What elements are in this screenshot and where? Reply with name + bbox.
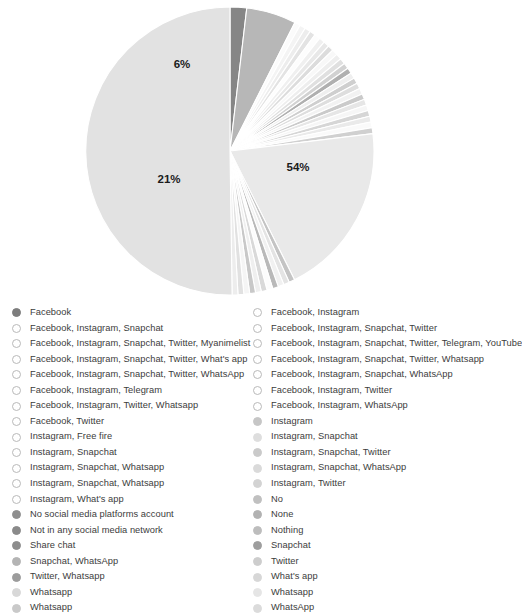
legend-color-swatch-icon [12,355,21,364]
legend-item-label: Facebook, Instagram, Snapchat, Twitter, … [30,336,250,352]
legend-color-swatch-icon [253,339,262,348]
legend-item[interactable]: Snapchat, WhatsApp [12,554,248,570]
legend-color-swatch-icon [253,510,262,519]
legend-item[interactable]: WhatsApp [253,600,513,616]
legend-color-swatch-icon [12,464,21,473]
legend-color-swatch-icon [12,417,21,426]
legend-item[interactable]: Twitter, Whatsapp [12,569,248,585]
legend-item[interactable]: Facebook, Twitter [12,414,248,430]
legend-color-swatch-icon [12,433,21,442]
legend-color-swatch-icon [12,370,21,379]
legend-color-swatch-icon [12,308,21,317]
legend-color-swatch-icon [253,448,262,457]
legend-item[interactable]: Instagram, Snapchat, WhatsApp [253,460,513,476]
legend-color-swatch-icon [253,573,262,582]
legend-item[interactable]: Instagram, Snapchat [12,445,248,461]
legend-item[interactable]: Twitter [253,554,513,570]
legend-item-label: Share chat [30,538,75,554]
legend-item[interactable]: Instagram, Snapchat, Whatsapp [12,460,248,476]
legend-color-swatch-icon [12,510,21,519]
legend-item-label: Twitter, Whatsapp [30,569,105,585]
legend-color-swatch-icon [253,464,262,473]
legend-item[interactable]: Facebook, Instagram, Snapchat, Twitter, … [12,336,248,352]
legend-item[interactable]: Snapchat [253,538,513,554]
legend-item[interactable]: Instagram, Snapchat, Whatsapp [12,476,248,492]
legend-color-swatch-icon [12,402,21,411]
legend-item[interactable]: Instagram, What's app [12,492,248,508]
legend-item[interactable]: Instagram, Twitter [253,476,513,492]
legend-item-label: Facebook, Instagram, Snapchat, Twitter, … [271,352,484,368]
legend-item[interactable]: Facebook, Instagram, Telegram [12,383,248,399]
legend-color-swatch-icon [253,604,262,613]
legend-item[interactable]: Facebook, Instagram, Snapchat, WhatsApp [253,367,513,383]
legend-item[interactable]: Instagram, Snapchat [253,429,513,445]
legend-item-label: Instagram, Twitter [271,476,346,492]
legend-item[interactable]: Facebook, Instagram, Twitter, Whatsapp [12,398,248,414]
legend-color-swatch-icon [253,433,262,442]
legend-color-swatch-icon [253,308,262,317]
legend-item[interactable]: Facebook, Instagram, Snapchat, Twitter, … [12,367,248,383]
legend-item[interactable]: Facebook, Instagram, Snapchat, Twitter [253,321,513,337]
legend-item[interactable]: Instagram, Free fire [12,429,248,445]
legend-color-swatch-icon [12,324,21,333]
legend-color-swatch-icon [12,495,21,504]
legend-color-swatch-icon [253,526,262,535]
legend-item[interactable]: Share chat [12,538,248,554]
legend-item-label: Facebook, Instagram, Snapchat [30,321,163,337]
legend-item-label: Not in any social media network [30,523,163,539]
pie-slice-percent-label: 54% [286,161,309,173]
legend-item-label: Facebook, Instagram, Snapchat, Twitter, … [30,367,244,383]
legend-color-swatch-icon [12,541,21,550]
legend-color-swatch-icon [12,526,21,535]
legend-item-label: Facebook, Instagram, WhatsApp [271,398,408,414]
legend-item[interactable]: Facebook, Instagram, Snapchat [12,321,248,337]
legend-item-label: Snapchat [271,538,311,554]
legend-color-swatch-icon [253,541,262,550]
legend-item[interactable]: Facebook, Instagram [253,305,513,321]
legend-item[interactable]: Not in any social media network [12,523,248,539]
legend-item-label: What's app [271,569,318,585]
legend-color-swatch-icon [253,417,262,426]
legend-item[interactable]: Facebook, Instagram, Twitter [253,383,513,399]
legend-color-swatch-icon [12,386,21,395]
legend-item-label: None [271,507,293,523]
legend-item[interactable]: Facebook [12,305,248,321]
pie-chart-area: 54%21%6% [0,0,513,302]
legend-item[interactable]: Facebook, Instagram, Snapchat, Twitter, … [253,336,513,352]
legend-item[interactable]: None [253,507,513,523]
legend-item[interactable]: Instagram [253,414,513,430]
legend-color-swatch-icon [12,573,21,582]
pie-slice [86,7,232,295]
legend-item[interactable]: Instagram, Snapchat, Twitter [253,445,513,461]
legend-item-label: No social media platforms account [30,507,174,523]
legend-item[interactable]: Whatsapp [253,585,513,601]
legend-item-label: Whatsapp [30,600,72,616]
legend-item[interactable]: No social media platforms account [12,507,248,523]
legend-item[interactable]: What's app [253,569,513,585]
legend-item[interactable]: Facebook, Instagram, Snapchat, Twitter, … [253,352,513,368]
legend-item-label: Nothing [271,523,303,539]
legend-item-label: Instagram, Snapchat, Twitter [271,445,391,461]
legend-item[interactable]: Facebook, Instagram, WhatsApp [253,398,513,414]
legend-item[interactable]: Whatsapp [12,600,248,616]
legend-item-label: Facebook, Instagram, Snapchat, Twitter, … [271,336,522,352]
legend-item-label: Instagram, Snapchat [271,429,358,445]
legend-item-label: Instagram, Snapchat, Whatsapp [30,476,164,492]
legend-item-label: Twitter [271,554,299,570]
legend-item-label: Facebook, Instagram, Snapchat, WhatsApp [271,367,453,383]
legend: FacebookFacebook, Instagram, SnapchatFac… [0,305,513,609]
legend-item[interactable]: No [253,492,513,508]
legend-color-swatch-icon [253,588,262,597]
legend-item-label: Facebook, Instagram, Snapchat, Twitter [271,321,437,337]
legend-item-label: Instagram, Free fire [30,429,112,445]
legend-color-swatch-icon [253,479,262,488]
legend-item[interactable]: Nothing [253,523,513,539]
legend-item[interactable]: Whatsapp [12,585,248,601]
legend-item-label: Instagram, Snapchat, Whatsapp [30,460,164,476]
legend-column-right: Facebook, InstagramFacebook, Instagram, … [248,305,513,609]
pie-chart-svg: 54%21%6% [0,0,513,302]
legend-color-swatch-icon [253,370,262,379]
legend-item-label: WhatsApp [271,600,314,616]
legend-item[interactable]: Facebook, Instagram, Snapchat, Twitter, … [12,352,248,368]
legend-column-left: FacebookFacebook, Instagram, SnapchatFac… [0,305,248,609]
